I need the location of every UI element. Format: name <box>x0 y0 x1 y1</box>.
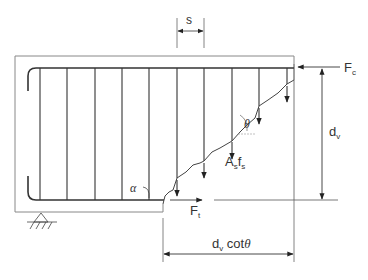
shear-crack-diagram: s Fc dv Ft Asfs θ α <box>0 0 368 280</box>
beam-outline <box>15 56 294 212</box>
tension-force: Ft <box>170 200 338 220</box>
svg-text:dv: dv <box>329 124 340 141</box>
depth-dimension: dv <box>322 69 340 199</box>
inclined-crack <box>163 64 294 204</box>
svg-text:θ: θ <box>244 117 250 131</box>
svg-text:Ft: Ft <box>190 203 201 220</box>
stirrup-force-label: Asfs <box>225 154 245 171</box>
svg-text:Fc: Fc <box>344 60 356 77</box>
bottom-longitudinal-bar <box>28 176 164 200</box>
svg-text:dv cotθ: dv cotθ <box>212 236 251 253</box>
spacing-dimension: s <box>177 13 204 48</box>
compression-force: Fc <box>298 60 356 77</box>
svg-text:α: α <box>130 181 137 195</box>
alpha-angle: α <box>130 181 149 198</box>
pin-support-icon <box>27 213 57 229</box>
horizontal-projection-dimension: dv cotθ <box>163 200 294 262</box>
spacing-label: s <box>186 13 192 27</box>
top-longitudinal-bar <box>28 68 294 91</box>
stirrups <box>40 68 287 200</box>
